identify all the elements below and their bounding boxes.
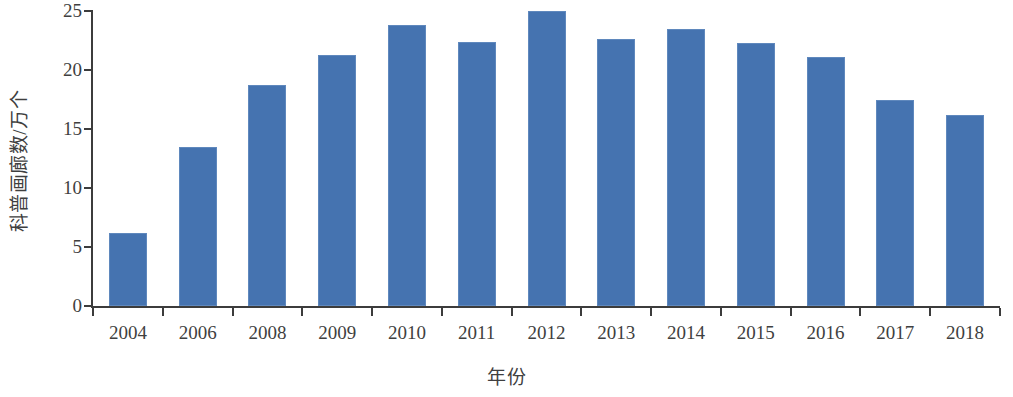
x-axis-tick-mark [371, 308, 373, 316]
x-axis-title: 年份 [0, 362, 1013, 389]
y-axis-tick-mark [84, 69, 93, 71]
y-axis-tick-mark [84, 305, 93, 307]
x-axis-tick-label: 2017 [860, 322, 930, 344]
x-axis-tick-mark [859, 308, 861, 316]
y-axis-tick-label: 25 [63, 1, 82, 20]
y-axis-tick-label: 20 [63, 60, 82, 79]
x-axis-tick-label: 2014 [651, 322, 721, 344]
y-axis-tick-mark [84, 128, 93, 130]
bar [807, 57, 845, 306]
x-axis-line [91, 306, 1000, 308]
x-axis-tick-label: 2013 [581, 322, 651, 344]
y-axis-tick-mark [84, 10, 93, 12]
x-axis-tick-label: 2006 [163, 322, 233, 344]
x-axis-tick-label: 2009 [302, 322, 372, 344]
y-axis-tick-label: 15 [63, 119, 82, 138]
x-axis-tick-label: 2008 [233, 322, 303, 344]
bar [179, 147, 217, 306]
bar [876, 100, 914, 307]
bar [248, 85, 286, 306]
y-axis-title: 科普画廊数/万个 [4, 6, 30, 316]
bar [946, 115, 984, 306]
bar [109, 233, 147, 306]
x-axis-tick-mark [441, 308, 443, 316]
x-axis-tick-label: 2004 [93, 322, 163, 344]
bar [458, 42, 496, 306]
bar [597, 39, 635, 306]
x-axis-tick-mark [650, 308, 652, 316]
x-axis-tick-mark [580, 308, 582, 316]
x-axis-tick-mark [162, 308, 164, 316]
bar [528, 11, 566, 306]
x-axis-tick-mark [999, 308, 1001, 316]
y-axis-tick-labels: 0510152025 [42, 0, 82, 320]
x-axis-tick-label: 2018 [930, 322, 1000, 344]
y-axis-tick-label: 0 [73, 296, 83, 315]
x-axis-tick-mark [790, 308, 792, 316]
x-axis-tick-label: 2016 [791, 322, 861, 344]
plot-area [93, 0, 1000, 306]
x-axis-tick-label: 2015 [721, 322, 791, 344]
y-axis-tick-mark [84, 246, 93, 248]
bar [318, 55, 356, 306]
y-axis-tick-mark [84, 187, 93, 189]
x-axis-tick-mark [720, 308, 722, 316]
x-axis-tick-mark [232, 308, 234, 316]
y-axis-tick-label: 5 [73, 237, 83, 256]
x-axis-tick-mark [511, 308, 513, 316]
x-axis-tick-label: 2011 [442, 322, 512, 344]
x-axis-tick-label: 2010 [372, 322, 442, 344]
x-axis-tick-mark [929, 308, 931, 316]
bar-chart: 科普画廊数/万个 0510152025 20042006200820092010… [0, 0, 1013, 397]
x-axis-tick-mark [301, 308, 303, 316]
x-axis-tick-label: 2012 [512, 322, 582, 344]
bar [737, 43, 775, 306]
x-axis-tick-labels: 2004200620082009201020112012201320142015… [93, 322, 1000, 348]
bar [388, 25, 426, 306]
y-axis-tick-label: 10 [63, 178, 82, 197]
bar [667, 29, 705, 306]
x-axis-tick-mark [92, 308, 94, 316]
